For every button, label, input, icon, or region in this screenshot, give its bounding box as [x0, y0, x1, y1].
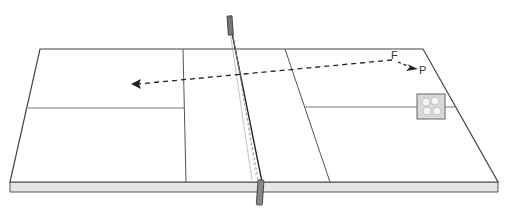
label-end: P	[419, 64, 426, 76]
target-marker	[417, 94, 445, 119]
court-edge	[10, 182, 498, 192]
label-start: F	[391, 49, 398, 61]
net-post-near	[256, 180, 264, 205]
court-svg	[0, 0, 511, 214]
net-post-far	[227, 16, 233, 35]
court-diagram: F P	[0, 0, 511, 214]
